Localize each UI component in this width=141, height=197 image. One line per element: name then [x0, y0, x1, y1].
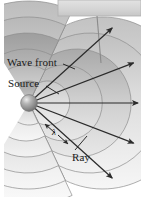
wave-front-ray-diagram: Wave front Source Ray λ: [0, 0, 141, 197]
source-label: Source: [8, 78, 39, 89]
source-sphere: [21, 95, 38, 112]
top-support-bar: [58, 0, 141, 16]
ray-label: Ray: [72, 152, 90, 163]
wave-front-label: Wave front: [7, 57, 57, 68]
wavelength-label: λ: [52, 128, 56, 137]
left-edge-mask: [0, 0, 4, 197]
diagram-canvas: [0, 0, 141, 197]
